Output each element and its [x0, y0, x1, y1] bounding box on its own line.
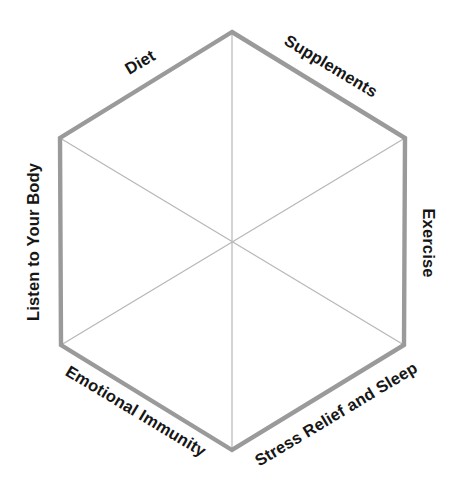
segment-label-exercise: Exercise — [421, 208, 438, 277]
hexagon-graphic — [0, 0, 464, 492]
segment-label-listen-to-your-body: Listen to Your Body — [25, 163, 42, 321]
hexagon-diagram: Diet Supplements Exercise Stress Relief … — [0, 0, 464, 492]
